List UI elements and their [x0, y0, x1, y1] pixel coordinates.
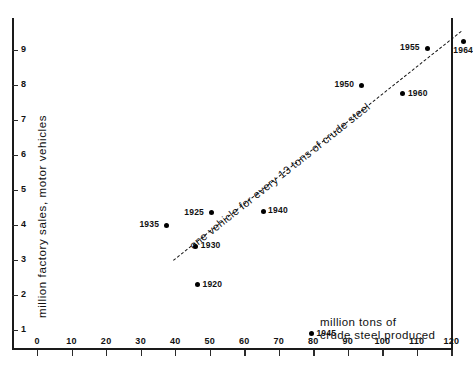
data-point: [164, 223, 169, 228]
data-point: [209, 210, 214, 215]
x-tick-label: 60: [239, 336, 250, 346]
x-tick-label: 30: [135, 336, 146, 346]
data-point: [309, 331, 314, 336]
x-tick-mark: [313, 350, 314, 356]
data-point-label: 1920: [203, 279, 223, 289]
x-tick-mark: [382, 350, 383, 356]
data-point: [461, 39, 466, 44]
data-point: [261, 209, 266, 214]
x-tick-label: 50: [204, 336, 215, 346]
y-tick-mark: [12, 155, 18, 156]
y-tick-mark: [12, 225, 18, 226]
x-tick-mark: [417, 350, 418, 356]
x-tick-mark: [106, 350, 107, 356]
data-point-label: 1930: [201, 240, 221, 250]
data-point-label: 1945: [316, 328, 336, 338]
data-point-label: 1935: [139, 219, 159, 229]
y-tick-mark: [12, 190, 18, 191]
trend-line-annotation: one vehicle for every 13 tons of crude s…: [187, 100, 372, 251]
x-tick-label: 70: [273, 336, 284, 346]
y-tick-mark: [12, 85, 18, 86]
y-tick-mark: [12, 50, 18, 51]
y-tick-label: 8: [21, 79, 26, 89]
y-tick-label: 4: [21, 219, 26, 229]
x-axis-label-line2: crude steel produced: [320, 329, 435, 341]
data-point-label: 1940: [268, 205, 288, 215]
data-point-label: 1950: [334, 79, 354, 89]
data-point-label: 1960: [408, 88, 428, 98]
data-point: [400, 91, 405, 96]
x-tick-mark: [451, 350, 452, 356]
data-point-label: 1925: [184, 207, 204, 217]
x-tick-mark: [175, 350, 176, 356]
x-axis-label: million tons of crude steel produced: [320, 316, 435, 342]
data-point: [193, 244, 198, 249]
y-tick-label: 2: [21, 289, 26, 299]
x-tick-label: 40: [170, 336, 181, 346]
x-tick-label: 20: [101, 336, 112, 346]
x-tick-mark: [210, 350, 211, 356]
y-axis-line: [12, 18, 14, 350]
y-tick-mark: [12, 330, 18, 331]
data-point-label: 1964: [453, 45, 473, 55]
y-axis-label: million factory sales, motor vehicles: [36, 115, 48, 318]
x-tick-label: 0: [34, 336, 39, 346]
y-tick-label: 5: [21, 184, 26, 194]
x-tick-label: 120: [443, 336, 459, 346]
x-tick-mark: [72, 350, 73, 356]
x-axis-line: [12, 348, 453, 350]
plot-right-border: [451, 18, 453, 350]
x-tick-mark: [279, 350, 280, 356]
y-tick-label: 1: [21, 324, 26, 334]
data-point: [195, 282, 200, 287]
x-tick-mark: [244, 350, 245, 356]
y-tick-label: 9: [21, 44, 26, 54]
x-tick-mark: [348, 350, 349, 356]
y-tick-label: 6: [21, 149, 26, 159]
data-point: [425, 46, 430, 51]
x-tick-mark: [141, 350, 142, 356]
y-tick-mark: [12, 295, 18, 296]
x-axis-label-line1: million tons of: [320, 316, 396, 328]
x-tick-mark: [37, 350, 38, 356]
x-tick-label: 10: [66, 336, 77, 346]
data-point-label: 1955: [400, 42, 420, 52]
y-tick-label: 7: [21, 114, 26, 124]
x-tick-label: 80: [308, 336, 319, 346]
y-tick-mark: [12, 120, 18, 121]
data-point: [359, 83, 364, 88]
y-tick-label: 3: [21, 254, 26, 264]
y-tick-mark: [12, 260, 18, 261]
